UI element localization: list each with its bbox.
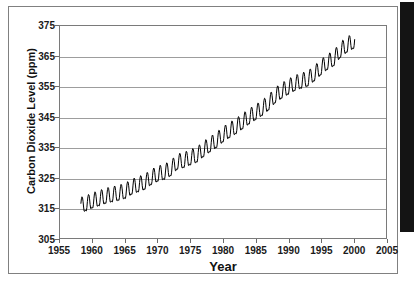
x-axis-tick-mark bbox=[92, 239, 93, 243]
x-axis-tick-mark bbox=[157, 239, 158, 243]
x-axis-tick-label: 1990 bbox=[277, 245, 299, 256]
y-axis-tick-label: 365 bbox=[38, 50, 55, 61]
x-axis-tick-label: 1985 bbox=[245, 245, 267, 256]
x-axis-tick-label: 1960 bbox=[81, 245, 103, 256]
x-axis-title: Year bbox=[59, 259, 387, 274]
chart-area: Carbon Dioxide Level (ppm) 3053153253353… bbox=[9, 7, 399, 275]
x-axis-tick-label: 1980 bbox=[212, 245, 234, 256]
y-axis-tick-label: 375 bbox=[38, 20, 55, 31]
y-axis-tick-label: 355 bbox=[38, 81, 55, 92]
scan-edge-artifact bbox=[400, 2, 414, 232]
x-axis-tick-mark bbox=[190, 239, 191, 243]
x-axis-tick-mark bbox=[387, 239, 388, 243]
x-axis-tick-label: 1970 bbox=[146, 245, 168, 256]
x-axis-tick-label: 2005 bbox=[376, 245, 398, 256]
y-axis-tick-label: 315 bbox=[38, 203, 55, 214]
x-axis-tick-mark bbox=[354, 239, 355, 243]
x-axis-tick-mark bbox=[223, 239, 224, 243]
x-axis-tick-label: 1975 bbox=[179, 245, 201, 256]
x-axis-tick-mark bbox=[125, 239, 126, 243]
x-axis-tick-mark bbox=[321, 239, 322, 243]
co2-series-plot bbox=[60, 26, 386, 238]
x-axis-tick-labels: 1955196019651970197519801985199019952000… bbox=[59, 245, 387, 259]
y-axis-tick-label: 335 bbox=[38, 142, 55, 153]
y-axis-tick-labels: 305315325335345355365375 bbox=[23, 25, 55, 239]
x-axis-tick-mark bbox=[289, 239, 290, 243]
x-axis-tick-label: 1995 bbox=[310, 245, 332, 256]
y-axis-tick-label: 305 bbox=[38, 234, 55, 245]
x-axis-tick-marks bbox=[59, 239, 387, 244]
x-axis-tick-mark bbox=[59, 239, 60, 243]
plot-area bbox=[59, 25, 387, 239]
x-axis-tick-label: 1955 bbox=[48, 245, 70, 256]
screenshot-root: Carbon Dioxide Level (ppm) 3053153253353… bbox=[0, 0, 414, 288]
y-axis-tick-label: 345 bbox=[38, 111, 55, 122]
x-axis-tick-label: 2000 bbox=[343, 245, 365, 256]
chart-figure-frame: Carbon Dioxide Level (ppm) 3053153253353… bbox=[8, 6, 398, 274]
x-axis-tick-mark bbox=[256, 239, 257, 243]
x-axis-tick-label: 1965 bbox=[113, 245, 135, 256]
co2-series-line bbox=[81, 36, 355, 212]
y-axis-tick-label: 325 bbox=[38, 172, 55, 183]
